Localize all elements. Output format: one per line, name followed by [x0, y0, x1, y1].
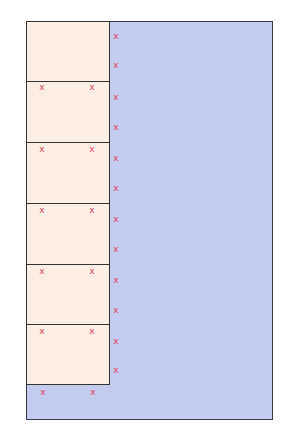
x-marker-icon: x — [38, 327, 46, 336]
x-marker-icon: x — [38, 83, 46, 92]
x-marker-icon: x — [88, 327, 96, 336]
x-marker-icon: x — [88, 267, 96, 276]
x-marker-icon: x — [112, 245, 120, 254]
x-marker-icon: x — [88, 206, 96, 215]
x-marker-icon: x — [112, 123, 120, 132]
x-marker-icon: x — [112, 215, 120, 224]
stack-box-1 — [26, 21, 110, 83]
x-marker-icon: x — [88, 145, 96, 154]
x-marker-icon: x — [112, 306, 120, 315]
x-marker-icon: x — [88, 83, 96, 92]
x-marker-icon: x — [112, 276, 120, 285]
x-marker-icon: x — [39, 388, 47, 397]
x-marker-icon: x — [38, 145, 46, 154]
x-marker-icon: x — [112, 366, 120, 375]
x-marker-icon: x — [112, 32, 120, 41]
x-marker-icon: x — [112, 337, 120, 346]
x-marker-icon: x — [112, 154, 120, 163]
x-marker-icon: x — [89, 388, 97, 397]
x-marker-icon: x — [112, 93, 120, 102]
x-marker-icon: x — [112, 61, 120, 70]
x-marker-icon: x — [112, 184, 120, 193]
x-marker-icon: x — [38, 206, 46, 215]
x-marker-icon: x — [38, 267, 46, 276]
